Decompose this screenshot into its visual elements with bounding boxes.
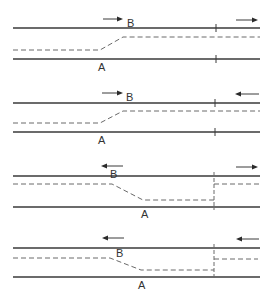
lane-shift-diagram: B A B A B A	[0, 0, 277, 300]
lane-center-line	[13, 184, 214, 200]
panel-1: B A	[13, 17, 260, 74]
lane-center-line	[13, 111, 260, 123]
panel-2: B A	[13, 91, 260, 147]
label-b: B	[127, 17, 134, 29]
arrow-left-icon	[102, 236, 124, 241]
arrow-right-icon	[103, 17, 123, 22]
label-b: B	[116, 247, 123, 259]
label-a: A	[98, 134, 106, 146]
lane-center-line	[13, 37, 260, 50]
arrow-left-icon	[235, 92, 259, 97]
lane-center-line	[13, 258, 214, 270]
arrow-right-icon	[102, 91, 123, 96]
label-b: B	[110, 168, 117, 180]
panel-4: B A	[13, 236, 260, 292]
label-a: A	[138, 279, 146, 291]
panel-3: B A	[13, 164, 260, 221]
label-a: A	[98, 61, 106, 73]
arrow-right-icon	[236, 165, 258, 170]
arrow-right-icon	[236, 18, 258, 23]
label-b: B	[126, 91, 133, 103]
arrow-left-icon	[236, 237, 259, 242]
label-a: A	[141, 208, 149, 220]
